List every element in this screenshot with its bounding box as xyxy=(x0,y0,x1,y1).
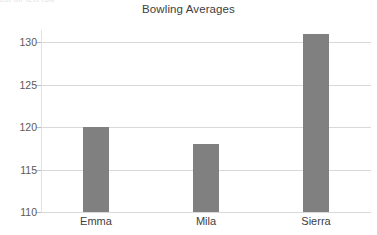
x-tick-label: Mila xyxy=(151,215,261,228)
plot-area xyxy=(41,34,371,212)
y-tick-label: 120 xyxy=(7,122,37,132)
bowling-averages-chart: cut off text row Bowling Averages 110115… xyxy=(0,0,377,235)
y-tick-label: 125 xyxy=(7,80,37,90)
bar xyxy=(303,34,329,212)
y-tick-label: 130 xyxy=(7,37,37,47)
bar xyxy=(193,144,219,212)
y-tick-label: 115 xyxy=(7,165,37,175)
gridline xyxy=(41,212,371,213)
y-tick-label: 110 xyxy=(7,207,37,217)
chart-title: Bowling Averages xyxy=(0,3,377,15)
bar xyxy=(83,127,109,212)
x-tick-label: Emma xyxy=(41,215,151,228)
x-tick-label: Sierra xyxy=(261,215,371,228)
